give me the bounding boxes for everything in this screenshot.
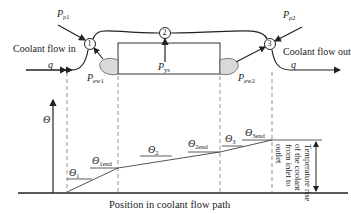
label-pys: Pys [158, 62, 170, 74]
label-theta1end: Θ1end [92, 156, 112, 168]
node-3-label: 3 [268, 40, 272, 48]
flow-out-q: q [291, 60, 296, 70]
end-winding-right [220, 58, 238, 74]
label-theta2: Θ2 [148, 145, 158, 157]
top-flow-path [93, 31, 267, 39]
label-pew1: Pew1 [87, 73, 104, 85]
arrow-p1 [58, 25, 85, 40]
label-theta3: Θ3 [225, 134, 235, 146]
node-1-label: 1 [88, 40, 92, 48]
label-p1: Pρ1 [57, 9, 70, 21]
label-pew2: Pew2 [238, 73, 255, 85]
arrow-p2 [275, 27, 302, 41]
label-theta2end: Θ2end [188, 139, 208, 151]
x-axis-label: Position in coolant flow path [109, 200, 230, 211]
inlet-label: Coolant flow in [13, 44, 76, 54]
section-dividers [67, 72, 272, 192]
temperature-rise-label: Temperature rise of the coolant from inl… [274, 144, 312, 201]
outlet-label: Coolant flow out [283, 47, 351, 57]
label-p2: Pρ2 [283, 10, 296, 22]
theta-axis-label: Θ [43, 115, 50, 125]
arrow-pew1 [94, 48, 103, 59]
node-2-label: 2 [163, 29, 167, 37]
flow-in-q: q [48, 60, 53, 70]
label-theta1: Θ1 [69, 168, 79, 180]
arrow-pew2 [236, 47, 265, 62]
label-theta3end: Θ3end [245, 128, 265, 140]
